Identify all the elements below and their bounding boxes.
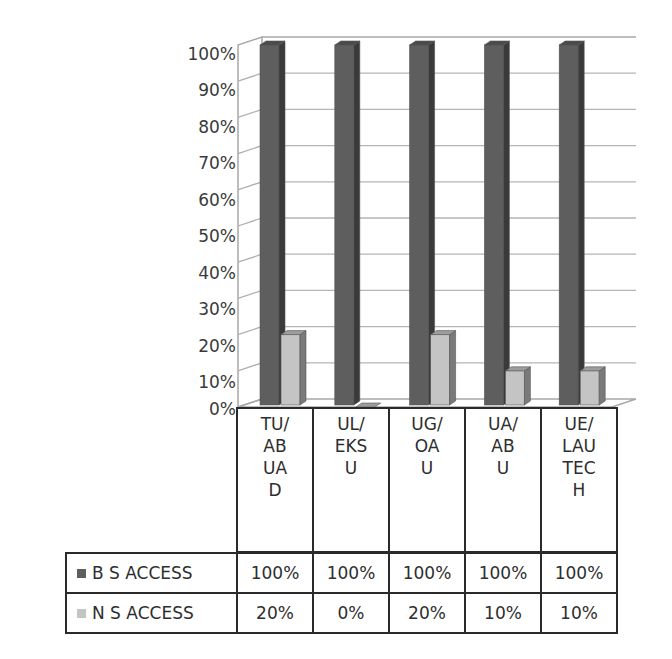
category-cell-ua-abu: UA/ AB U <box>465 408 541 552</box>
category-cell-ue-lautech: UE/ LAU TEC H <box>541 408 617 552</box>
bar-bs-1 <box>335 41 360 405</box>
cell-ns-ue-lautech: 10% <box>541 593 617 633</box>
cell-bs-ul-eksu: 100% <box>313 553 389 593</box>
bar-ns-0 <box>281 331 306 405</box>
cell-bs-ue-lautech: 100% <box>541 553 617 593</box>
cell-bs-tu-abuad: 100% <box>237 553 313 593</box>
category-cell-tu-abuad: TU/ AB UA D <box>237 408 313 552</box>
bar-ns-2 <box>431 331 456 405</box>
bar-bs-3 <box>484 41 509 405</box>
legend-entry-bs-access: B S ACCESS <box>66 553 237 593</box>
cell-ns-ug-oau: 20% <box>389 593 465 633</box>
cell-bs-ug-oau: 100% <box>389 553 465 593</box>
plot-area <box>0 0 672 440</box>
bar-ns-3 <box>505 367 530 405</box>
data-table-row-ns-access: N S ACCESS 20% 0% 20% 10% 10% <box>66 593 617 633</box>
category-cell-ul-eksu: UL/ EKS U <box>313 408 389 552</box>
bar-bs-4 <box>559 41 584 405</box>
bar-ns-4 <box>580 367 605 405</box>
data-table-row-bs-access: B S ACCESS 100% 100% 100% 100% 100% <box>66 553 617 593</box>
cell-bs-ua-abu: 100% <box>465 553 541 593</box>
data-table: B S ACCESS 100% 100% 100% 100% 100% N S … <box>65 552 618 634</box>
cell-ns-tu-abuad: 20% <box>237 593 313 633</box>
bars <box>260 41 605 407</box>
cell-ns-ua-abu: 10% <box>465 593 541 633</box>
legend-swatch-light-icon <box>77 609 86 618</box>
category-cell-ug-oau: UG/ OA U <box>389 408 465 552</box>
cell-ns-ul-eksu: 0% <box>313 593 389 633</box>
legend-swatch-dark-icon <box>77 569 86 578</box>
legend-entry-ns-access: N S ACCESS <box>66 593 237 633</box>
category-header: TU/ AB UA D UL/ EKS U UG/ OA U UA/ AB U <box>236 407 618 553</box>
